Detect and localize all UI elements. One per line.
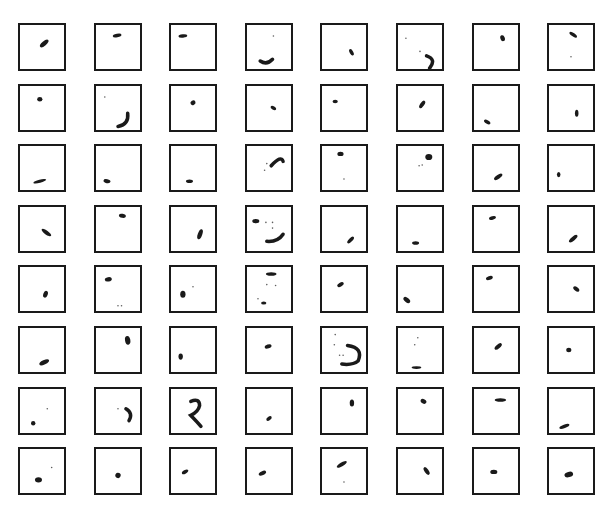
ink-blob: [425, 154, 432, 160]
ink-stroke: [271, 159, 283, 166]
image-patch: [396, 326, 444, 374]
patch-content: [398, 449, 442, 493]
ink-blob: [42, 290, 49, 298]
image-patch: [320, 205, 368, 253]
patch-content: [20, 267, 64, 311]
image-patch: [245, 326, 293, 374]
image-patch: [396, 144, 444, 192]
image-patch: [94, 326, 142, 374]
image-patch: [245, 447, 293, 495]
ink-blob: [186, 179, 193, 183]
patch-content: [96, 207, 140, 251]
ink-stroke: [427, 56, 433, 68]
patch-content: [322, 86, 366, 130]
patch-content: [549, 146, 593, 190]
ink-blob: [178, 354, 182, 360]
ink-stroke: [191, 400, 201, 426]
patch-content: [247, 25, 291, 69]
ink-blob: [412, 241, 419, 245]
patch-content: [96, 267, 140, 311]
image-patch: [320, 23, 368, 71]
image-patch: [472, 265, 520, 313]
image-patch: [94, 387, 142, 435]
patch-content: [549, 207, 593, 251]
image-patch: [320, 387, 368, 435]
patch-content: [171, 146, 215, 190]
image-patch: [94, 447, 142, 495]
ink-blob: [35, 477, 42, 482]
ink-blob: [178, 34, 187, 38]
patch-content: [474, 207, 518, 251]
image-patch: [547, 23, 595, 71]
ink-stroke: [118, 113, 128, 126]
ink-dot: [192, 286, 194, 288]
ink-blob: [180, 291, 185, 298]
image-patch: [94, 23, 142, 71]
patch-content: [474, 267, 518, 311]
ink-dot: [570, 56, 572, 58]
ink-dot: [339, 354, 341, 356]
ink-blob: [346, 236, 355, 245]
ink-blob: [493, 172, 503, 181]
patch-content: [322, 25, 366, 69]
ink-blob: [499, 35, 505, 42]
image-patch: [18, 84, 66, 132]
image-patch: [396, 265, 444, 313]
ink-dot: [117, 408, 119, 410]
ink-dot: [417, 337, 419, 339]
ink-dot: [257, 298, 259, 300]
patch-content: [20, 86, 64, 130]
image-patch: [396, 23, 444, 71]
image-patch: [94, 205, 142, 253]
ink-dot: [275, 285, 277, 287]
ink-dot: [343, 178, 345, 180]
image-patch: [472, 23, 520, 71]
ink-blob: [190, 99, 197, 105]
ink-blob: [103, 179, 111, 184]
image-patch: [472, 387, 520, 435]
image-patch: [169, 144, 217, 192]
patch-content: [322, 207, 366, 251]
patch-content: [20, 328, 64, 372]
ink-dot: [121, 305, 123, 307]
patch-content: [20, 449, 64, 493]
image-patch: [169, 265, 217, 313]
image-patch: [245, 84, 293, 132]
ink-blob: [559, 423, 570, 430]
patch-content: [171, 25, 215, 69]
patch-content: [398, 267, 442, 311]
patch-content: [171, 267, 215, 311]
image-patch: [18, 447, 66, 495]
patch-content: [398, 328, 442, 372]
image-patch: [245, 387, 293, 435]
ink-blob: [575, 110, 579, 117]
image-patch: [94, 84, 142, 132]
patch-content: [549, 86, 593, 130]
ink-blob: [114, 472, 121, 479]
patch-content: [96, 25, 140, 69]
ink-blob: [485, 275, 493, 281]
ink-dot: [418, 165, 420, 167]
ink-blob: [483, 119, 491, 126]
image-patch: [320, 326, 368, 374]
ink-dot: [46, 408, 48, 410]
ink-blob: [418, 100, 426, 109]
image-patch: [169, 205, 217, 253]
ink-stroke: [126, 409, 131, 421]
image-patch: [18, 326, 66, 374]
ink-dot: [419, 51, 421, 53]
patch-content: [398, 146, 442, 190]
image-patch: [396, 205, 444, 253]
ink-blob: [124, 336, 131, 346]
ink-blob: [252, 219, 259, 223]
image-patch: [245, 265, 293, 313]
image-patch: [94, 144, 142, 192]
ink-blob: [104, 277, 112, 283]
ink-dot: [272, 227, 274, 229]
image-patch: [472, 326, 520, 374]
image-patch: [18, 144, 66, 192]
image-patch: [169, 23, 217, 71]
image-patch: [245, 205, 293, 253]
ink-dot: [272, 222, 274, 224]
patch-content: [171, 449, 215, 493]
